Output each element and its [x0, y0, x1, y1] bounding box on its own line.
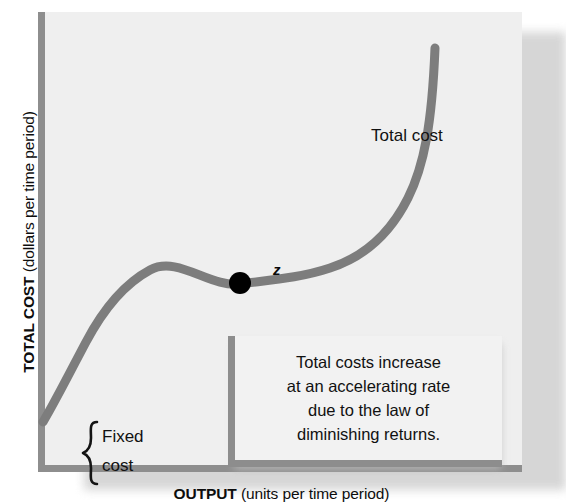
x-axis-title-bold: OUTPUT: [174, 485, 237, 502]
total-cost-curve-label: Total cost: [371, 126, 443, 146]
plot-panel: Total cost z Fixed cost Total costs incr…: [38, 12, 522, 472]
fixed-cost-label-line-1: Fixed: [102, 422, 144, 451]
callout-box-bevel-bottom: [228, 460, 502, 467]
callout-box: Total costs increase at an accelerating …: [228, 336, 495, 461]
point-z-label: z: [273, 261, 281, 278]
callout-line-2: at an accelerating rate: [287, 374, 450, 398]
callout-line-4: diminishing returns.: [297, 422, 440, 446]
callout-box-bevel-left: [228, 336, 235, 467]
y-axis-title-unit: (dollars per time period): [20, 111, 37, 276]
fixed-cost-label: Fixed cost: [102, 422, 144, 480]
fixed-cost-label-line-2: cost: [102, 451, 144, 480]
fixed-cost-annotation: Fixed cost: [81, 420, 211, 486]
callout-line-1: Total costs increase: [296, 350, 441, 374]
x-axis-title: OUTPUT (units per time period): [0, 485, 535, 502]
curly-brace-icon: [81, 420, 103, 486]
inflection-point-marker: [229, 272, 251, 294]
callout-box-face: Total costs increase at an accelerating …: [235, 336, 502, 460]
y-axis-title: TOTAL COST (dollars per time period): [20, 57, 38, 427]
callout-line-3: due to the law of: [308, 398, 429, 422]
x-axis-title-unit: (units per time period): [237, 485, 390, 502]
y-axis-title-bold: TOTAL COST: [20, 277, 37, 373]
